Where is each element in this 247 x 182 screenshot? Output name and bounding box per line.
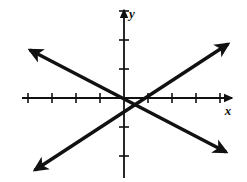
coordinate-plane-figure: x y (0, 0, 247, 182)
graph-canvas: x y (0, 0, 247, 182)
y-axis-label: y (127, 6, 135, 21)
x-axis-label: x (224, 103, 232, 118)
